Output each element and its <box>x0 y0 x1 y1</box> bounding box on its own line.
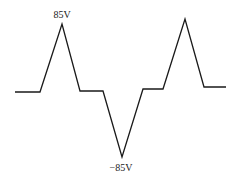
trough-voltage-label: −85V <box>110 162 133 173</box>
waveform-diagram <box>0 0 238 185</box>
peak-voltage-label: 85V <box>53 9 70 20</box>
waveform-line <box>15 19 226 157</box>
